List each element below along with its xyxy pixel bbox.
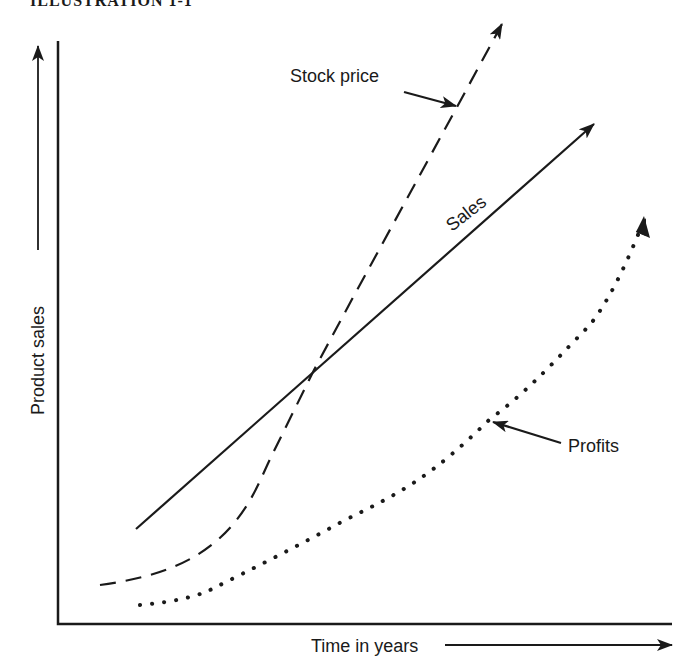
y-axis-label: Product sales (28, 306, 48, 415)
stock-price-line (100, 24, 502, 585)
sales-label: Sales (442, 192, 490, 235)
profits-label: Profits (568, 436, 619, 456)
x-axis-label: Time in years (311, 636, 418, 656)
figure-heading: ILLUSTRATION 1-1 (30, 0, 193, 9)
profits-line (140, 225, 642, 605)
stock-price-label: Stock price (290, 66, 379, 86)
stock-price-pointer-icon (404, 92, 456, 106)
diagram: ILLUSTRATION 1-1 Product sales Time in y… (0, 0, 696, 670)
profits-pointer-icon (493, 422, 561, 443)
sales-line (136, 124, 594, 529)
axes (58, 41, 672, 624)
